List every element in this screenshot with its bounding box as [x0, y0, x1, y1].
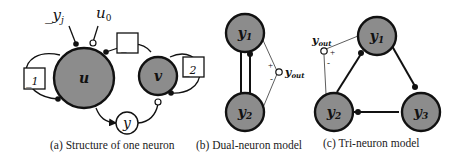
u-to-y-arrow	[96, 108, 116, 123]
box-right-label: _2	[184, 64, 197, 77]
y2-to-y1-line	[337, 54, 361, 92]
caption-b: (b) Dual-neuron model	[196, 139, 302, 152]
box-top-label: _	[121, 40, 127, 53]
y3-to-y2-dot	[355, 109, 361, 115]
output-node-c	[321, 48, 327, 54]
caption-a: (a) Structure of one neuron	[50, 139, 175, 152]
y2-to-out-line	[324, 55, 326, 94]
box-left-label: _1	[26, 75, 39, 88]
input-yj-label: _yj	[45, 6, 64, 25]
caption-c: (c) Tri-neuron model	[323, 137, 419, 150]
input-u0-hollow	[90, 40, 96, 46]
y-to-v-hollow	[155, 99, 161, 105]
v-to-u-dot	[103, 49, 109, 55]
neuron-diagram: _1 _ _2 u v y _yj u0 (a) Structure of on…	[0, 0, 459, 160]
minus-sign-c: -	[327, 58, 330, 68]
output-label-c: yout	[311, 34, 332, 48]
output-node-b	[276, 69, 282, 75]
y2-to-y1-dot	[358, 50, 364, 56]
input-yj-dot	[73, 41, 79, 47]
input-u0-label: u0	[96, 4, 112, 23]
y-to-v-path	[138, 104, 158, 123]
output-label-b: yout	[284, 66, 305, 80]
node-y-label: y	[122, 115, 132, 131]
node-u-label: u	[79, 70, 89, 86]
panel-c-tri-neuron: + - yout y1 y2 y3 (c) Tri-neuron model	[311, 17, 440, 150]
y1-to-y3-dot	[412, 84, 418, 90]
plus-sign-c: +	[330, 47, 335, 57]
y1-to-y3-line	[392, 46, 416, 88]
panel-a-single-neuron: _1 _ _2 u v y _yj u0 (a) Structure of on…	[24, 4, 204, 152]
input-yj-line	[69, 26, 76, 44]
panel-b-dual-neuron: + - yout y1 y2 (b) Dual-neuron model	[196, 14, 305, 152]
minus-sign-b: -	[270, 74, 273, 84]
node-v-label: v	[154, 68, 163, 84]
plus-sign-b: +	[268, 60, 273, 70]
